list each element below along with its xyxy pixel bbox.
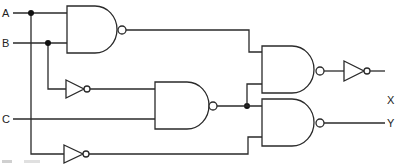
output-label-y: Y [387,117,395,129]
input-label-a: A [2,7,10,19]
input-label-c: C [2,113,10,125]
not-gate-1 [66,80,155,98]
output-label-x: X [387,94,395,106]
nand-gate-3 [262,46,344,93]
logic-circuit-diagram: A B C X Y [0,0,396,165]
not-gate-2 [64,137,262,163]
nand-gate-2 [155,82,262,129]
input-label-b: B [2,37,9,49]
nand-gate-4 [262,99,385,146]
caption-remnant-2 [24,160,40,163]
caption-remnant [2,160,12,163]
wire-a [13,13,67,154]
wire-b [13,43,67,89]
junction-dot-a [28,10,34,16]
junction-dot-b [45,40,51,46]
nand-gate-1 [67,6,262,53]
not-gate-3 [344,61,385,81]
